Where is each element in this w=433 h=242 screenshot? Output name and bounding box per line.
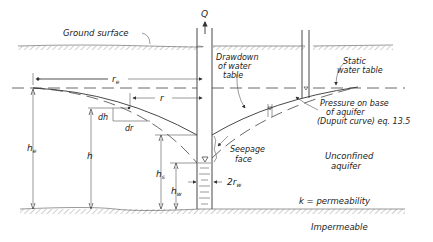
- aquifer-type-label: Unconfined aquifer: [325, 151, 376, 171]
- dupuit-curve-left: [33, 88, 197, 163]
- pumping-well: [197, 28, 212, 209]
- seepage-face-label: Seepage face: [230, 145, 267, 164]
- static-water-table-label: Static water table: [337, 57, 383, 75]
- seepage-face-pointer: [218, 136, 228, 146]
- ground-surface: [18, 45, 393, 50]
- seepage-face-bracket: [214, 136, 217, 162]
- water-level-icon: [202, 157, 208, 162]
- r-label: r: [160, 93, 165, 103]
- hw-label: hw: [171, 186, 182, 197]
- observation-well: [302, 30, 309, 98]
- h-label: h: [87, 151, 93, 161]
- piezometer: [268, 104, 272, 117]
- ground-surface-label: Ground surface: [63, 28, 129, 38]
- impermeable-base: [20, 208, 405, 215]
- ground-surface-pointer: [142, 33, 150, 44]
- well-water: [198, 163, 211, 204]
- drawdown-curve-left: [33, 88, 197, 135]
- dr-label: dr: [125, 124, 134, 133]
- he-label: he: [27, 143, 37, 154]
- well-diameter-label: 2rw: [227, 177, 241, 188]
- dh-label: dh: [98, 113, 108, 122]
- hs-label: hs: [156, 169, 165, 180]
- discharge-label: Q: [201, 9, 208, 19]
- aquifer-diagram: Q Ground surface re r dh dr he h hs hw 2…: [0, 0, 433, 242]
- pressure-base-label: Pressure on base of aquifer (Dupuit curv…: [317, 99, 410, 126]
- re-label: re: [112, 74, 120, 85]
- impermeable-label: Impermeable: [311, 222, 368, 232]
- permeability-label: k = permeability: [299, 196, 371, 206]
- drawdown-label: Drawdown of water table: [216, 53, 261, 80]
